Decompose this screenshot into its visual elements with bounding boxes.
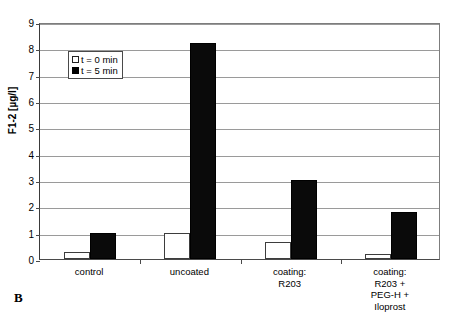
y-tick-mark	[36, 156, 40, 157]
legend-swatch	[72, 67, 79, 74]
y-tick-mark	[36, 129, 40, 130]
gridline	[40, 156, 439, 157]
y-tick-label: 6	[28, 98, 34, 108]
y-tick-label: 5	[28, 124, 34, 134]
y-tick-label: 8	[28, 45, 34, 55]
bar	[90, 233, 116, 259]
y-tick-mark	[36, 261, 40, 262]
legend-item: t = 5 min	[72, 65, 118, 76]
x-axis-separator	[241, 259, 242, 264]
y-tick-label: 3	[28, 177, 34, 187]
y-tick-mark	[36, 208, 40, 209]
y-tick-label: 1	[28, 230, 34, 240]
y-tick-label: 7	[28, 72, 34, 82]
x-category-label: uncoated	[139, 266, 239, 278]
bar	[365, 254, 391, 259]
gridline	[40, 208, 439, 209]
panel-letter: B	[14, 291, 23, 304]
y-tick-mark	[36, 24, 40, 25]
bar	[64, 252, 90, 259]
x-axis-separator	[140, 259, 141, 264]
y-tick-label: 2	[28, 203, 34, 213]
figure-panel-b: F1-2 [µg/l] 0123456789 controluncoatedco…	[0, 0, 458, 317]
x-category-label: control	[39, 266, 139, 278]
x-axis-separator	[341, 259, 342, 264]
y-tick-mark	[36, 235, 40, 236]
gridline	[40, 129, 439, 130]
legend-swatch	[72, 56, 79, 63]
x-category-label: coating: R203 + PEG-H + Iloprost	[340, 266, 440, 312]
legend-label: t = 5 min	[81, 65, 118, 76]
gridline	[40, 182, 439, 183]
y-tick-mark	[36, 77, 40, 78]
legend-label: t = 0 min	[81, 54, 118, 65]
bar	[291, 180, 317, 259]
y-tick-label: 0	[28, 256, 34, 266]
y-tick-mark	[36, 50, 40, 51]
chart-legend: t = 0 mint = 5 min	[68, 51, 123, 79]
gridline	[40, 103, 439, 104]
gridline	[40, 24, 439, 25]
bar	[164, 233, 190, 259]
x-category-label: coating: R203	[240, 266, 340, 289]
y-tick-label: 9	[28, 19, 34, 29]
y-tick-mark	[36, 103, 40, 104]
y-tick-label: 4	[28, 151, 34, 161]
bar	[391, 212, 417, 259]
bar	[265, 242, 291, 259]
y-axis-title: F1-2 [µg/l]	[7, 61, 18, 161]
legend-item: t = 0 min	[72, 54, 118, 65]
bar	[190, 43, 216, 259]
y-tick-mark	[36, 182, 40, 183]
